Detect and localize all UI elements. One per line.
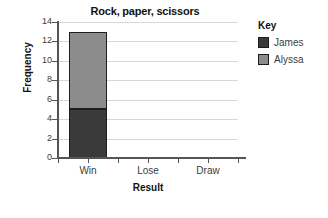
x-tick-mark <box>118 159 119 163</box>
legend-swatch-icon <box>258 37 269 48</box>
chart-title: Rock, paper, scissors <box>55 5 235 17</box>
legend-swatch-icon <box>258 54 269 65</box>
legend-entries: JamesAlyssa <box>258 37 328 65</box>
chart-container: Rock, paper, scissors Frequency 02468101… <box>0 0 328 218</box>
x-tick-mark <box>238 159 239 163</box>
x-axis-title: Result <box>58 182 238 193</box>
y-tick-label: 12 <box>0 36 52 45</box>
legend: Key JamesAlyssa <box>258 20 328 71</box>
y-tick-mark <box>52 61 57 62</box>
legend-item-label: Alyssa <box>274 54 303 65</box>
y-axis-title: Frequency <box>22 13 33 123</box>
y-tick-label: 6 <box>0 95 52 104</box>
legend-item: Alyssa <box>258 54 328 65</box>
legend-item-label: James <box>274 37 303 48</box>
y-tick-mark <box>52 119 57 120</box>
y-tick-label: 0 <box>0 153 52 162</box>
y-tick-label: 4 <box>0 114 52 123</box>
y-tick-mark <box>52 100 57 101</box>
x-tick-mark <box>208 159 209 163</box>
y-tick-mark <box>52 80 57 81</box>
x-tick-mark <box>88 159 89 163</box>
x-tick-mark <box>58 159 59 163</box>
x-tick-label: Win <box>58 165 118 176</box>
y-tick-mark <box>52 139 57 140</box>
legend-item: James <box>258 37 328 48</box>
y-tick-label: 14 <box>0 17 52 26</box>
y-tick-label: 10 <box>0 56 52 65</box>
y-tick-mark <box>52 158 57 159</box>
bar-segment <box>69 32 107 110</box>
y-tick-label: 2 <box>0 134 52 143</box>
legend-title: Key <box>258 20 328 31</box>
y-tick-label: 8 <box>0 75 52 84</box>
plot-area <box>58 22 238 158</box>
y-tick-mark <box>52 41 57 42</box>
gridline <box>58 22 238 23</box>
y-axis-line <box>57 21 59 159</box>
y-tick-mark <box>52 22 57 23</box>
x-tick-label: Draw <box>178 165 238 176</box>
x-tick-label: Lose <box>118 165 178 176</box>
x-tick-mark <box>178 159 179 163</box>
x-axis-line <box>58 157 246 159</box>
x-tick-mark <box>148 159 149 163</box>
bar-segment <box>69 109 107 158</box>
